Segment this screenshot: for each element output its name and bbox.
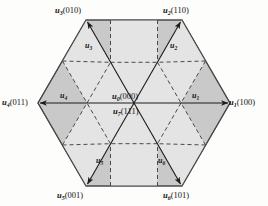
inner-lobe-top [111, 20, 158, 62]
vector-label-u2-sub: 2 [174, 45, 177, 51]
hexagon-cell-diagram [0, 0, 268, 206]
vector-label-u4: u4 [60, 92, 67, 100]
vector-label-u1: u1 [192, 92, 199, 100]
center-label-u7: u7(111) [113, 107, 139, 116]
vertex-label-u6: u6(101) [163, 191, 189, 200]
inner-lobe-bottom [111, 144, 158, 186]
vertex-label-u5-code: (001) [65, 190, 83, 200]
vertex-label-u6-sub: 6 [168, 195, 171, 201]
vertex-label-u4: u4(011) [2, 98, 28, 107]
vertex-label-u3-sub: 3 [60, 10, 63, 16]
vector-label-u5: u5 [96, 157, 103, 165]
vector-label-u3-sub: 3 [89, 45, 92, 51]
vertex-label-u4-sub: 4 [7, 102, 10, 108]
vertex-label-u1-code: (100) [237, 97, 255, 107]
vertex-label-u6-code: (101) [171, 190, 189, 200]
vector-label-u5-sub: 5 [100, 160, 103, 166]
vertex-label-u1-sub: 1 [234, 102, 237, 108]
vertex-label-u2: u2(110) [163, 6, 189, 15]
vector-label-u1-sub: 1 [196, 95, 199, 101]
center-label-u0-sub: 0 [117, 96, 120, 102]
vertex-label-u4-code: (011) [10, 97, 28, 107]
vertex-label-u2-sub: 2 [168, 10, 171, 16]
vector-label-u2: u2 [170, 42, 177, 50]
vertex-label-u3: u3(010) [55, 6, 81, 15]
center-label-u7-sub: 7 [118, 111, 121, 117]
center-label-u0-code: (000) [120, 91, 138, 101]
vector-label-u6-sub: 6 [162, 160, 165, 166]
vertex-label-u5: u5(001) [57, 191, 83, 200]
vector-label-u6: u6 [158, 157, 165, 165]
vector-label-u3: u3 [85, 42, 92, 50]
vertex-label-u5-sub: 5 [62, 195, 65, 201]
vertex-label-u3-code: (010) [63, 5, 81, 15]
vector-label-u4-sub: 4 [64, 95, 67, 101]
center-label-u7-code: (111) [121, 106, 139, 116]
center-label-u0: u0(000) [112, 92, 138, 101]
vertex-label-u2-code: (110) [171, 5, 189, 15]
vertex-label-u1: u1(100) [229, 98, 255, 107]
